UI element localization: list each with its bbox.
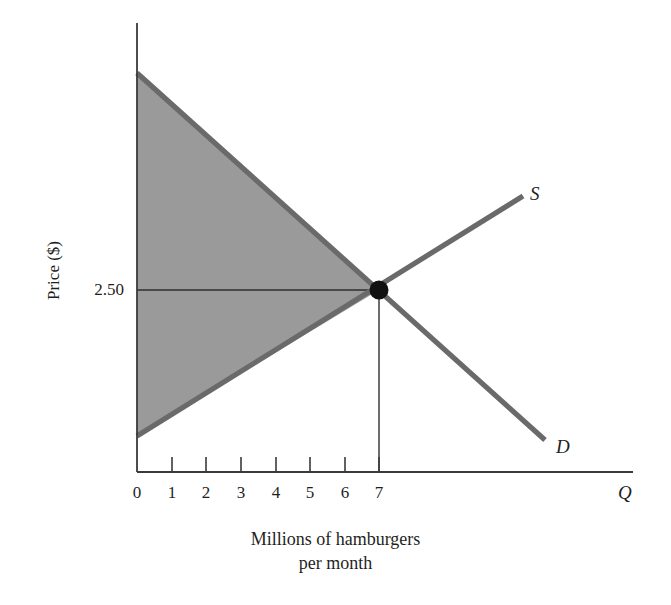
x-axis-ticks bbox=[172, 457, 379, 472]
x-axis-title-line2: per month bbox=[0, 551, 671, 575]
x-tick-label-1: 1 bbox=[160, 484, 184, 501]
y-tick-label-price: 2.50 bbox=[72, 281, 124, 298]
x-tick-label-4: 4 bbox=[264, 484, 288, 501]
x-tick-label-7: 7 bbox=[367, 484, 391, 501]
x-axis-symbol-label: Q bbox=[618, 483, 632, 502]
x-tick-label-5: 5 bbox=[298, 484, 322, 501]
equilibrium-point-marker bbox=[370, 281, 389, 300]
x-axis-title: Millions of hamburgers per month bbox=[0, 527, 671, 576]
demand-curve-label: D bbox=[556, 437, 570, 456]
supply-curve-label: S bbox=[530, 184, 540, 203]
chart-canvas bbox=[0, 0, 671, 605]
x-tick-label-3: 3 bbox=[229, 484, 253, 501]
x-tick-label-0: 0 bbox=[125, 484, 149, 501]
supply-demand-figure: Price ($) 2.50 0 1 2 3 4 5 6 7 Q S D Mil… bbox=[0, 0, 671, 605]
x-axis-title-line1: Millions of hamburgers bbox=[251, 529, 421, 549]
total-surplus-shaded-region bbox=[137, 73, 379, 436]
x-tick-label-2: 2 bbox=[194, 484, 218, 501]
x-tick-label-6: 6 bbox=[333, 484, 357, 501]
y-axis-title: Price ($) bbox=[45, 241, 62, 300]
